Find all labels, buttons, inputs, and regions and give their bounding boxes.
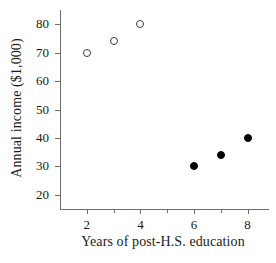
y-tick: 40 bbox=[55, 138, 60, 139]
y-tick-label: 30 bbox=[23, 157, 49, 174]
y-tick: 80 bbox=[55, 24, 60, 25]
y-tick: 20 bbox=[55, 195, 60, 196]
data-point-open bbox=[110, 37, 118, 45]
x-tick-minor bbox=[167, 209, 168, 213]
x-tick-major: 2 bbox=[87, 209, 88, 214]
x-tick-label: 6 bbox=[184, 217, 204, 233]
y-tick: 50 bbox=[55, 110, 60, 111]
x-tick-minor bbox=[221, 209, 222, 213]
plot-area: 80706050403020 2468 bbox=[60, 10, 269, 210]
x-tick-minor bbox=[114, 209, 115, 213]
y-tick: 30 bbox=[55, 166, 60, 167]
y-tick-label: 20 bbox=[23, 186, 49, 203]
x-tick-label: 8 bbox=[238, 217, 258, 233]
y-tick-label: 80 bbox=[23, 15, 49, 32]
y-tick-label: 40 bbox=[23, 129, 49, 146]
y-tick: 60 bbox=[55, 81, 60, 82]
y-tick-label: 60 bbox=[23, 72, 49, 89]
x-axis-line bbox=[60, 209, 269, 210]
x-tick-label: 4 bbox=[130, 217, 150, 233]
data-point-open bbox=[83, 49, 91, 57]
y-tick-label: 50 bbox=[23, 101, 49, 118]
y-tick: 70 bbox=[55, 53, 60, 54]
x-axis-title: Years of post-H.S. education bbox=[55, 234, 271, 250]
data-point-filled bbox=[190, 162, 198, 170]
data-point-filled bbox=[244, 134, 252, 142]
y-tick-label: 70 bbox=[23, 44, 49, 61]
scatter-plot-figure: Annual income ($1,000) Years of post-H.S… bbox=[0, 0, 276, 263]
data-point-filled bbox=[217, 151, 225, 159]
x-tick-label: 2 bbox=[77, 217, 97, 233]
x-tick-major: 4 bbox=[140, 209, 141, 214]
data-point-open bbox=[136, 20, 144, 28]
x-tick-major: 8 bbox=[248, 209, 249, 214]
y-axis-line bbox=[60, 10, 61, 210]
x-tick-major: 6 bbox=[194, 209, 195, 214]
